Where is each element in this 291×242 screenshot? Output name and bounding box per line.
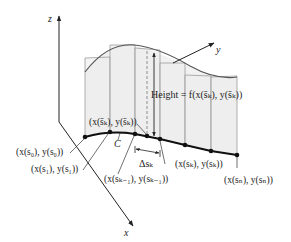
label-s-n: (x(sₙ), y(sₙ)) bbox=[224, 175, 273, 186]
label-sbar-k: (x(s̄ₖ), y(s̄ₖ)) bbox=[89, 117, 137, 128]
y-axis-label: y bbox=[215, 44, 221, 55]
point-s-n bbox=[235, 153, 240, 158]
panel-4 bbox=[160, 63, 185, 145]
point-sbar-k bbox=[145, 134, 150, 139]
point-s5 bbox=[183, 143, 188, 148]
point-s1 bbox=[108, 130, 113, 135]
panel-5 bbox=[185, 75, 211, 151]
label-s1: (x(s₁), y(s₁)) bbox=[31, 164, 78, 175]
label-s-k: (x(sₖ), y(sₖ)) bbox=[175, 159, 223, 170]
z-axis: z bbox=[47, 13, 59, 122]
label-s-k-minus-1: (x(sₖ₋₁), y(sₖ₋₁)) bbox=[104, 174, 168, 185]
y-axis: y bbox=[173, 43, 221, 63]
label-s0: (x(s₀), y(s₀)) bbox=[16, 147, 63, 158]
delta-s-label: Δsₖ bbox=[139, 158, 153, 169]
point-s0 bbox=[83, 135, 88, 140]
delta-s-indicator: Δsₖ bbox=[135, 146, 160, 169]
panel-6 bbox=[211, 76, 237, 155]
x-axis-label: x bbox=[123, 227, 129, 238]
point-s6 bbox=[209, 149, 214, 154]
point-s-k-minus-1 bbox=[133, 132, 138, 137]
point-s-k bbox=[158, 137, 163, 142]
curve-label: C bbox=[114, 138, 121, 149]
z-axis-label: z bbox=[47, 13, 52, 24]
line-integral-figure: z y x bbox=[0, 0, 291, 242]
height-label: Height = f(x(s̄ₖ), y(s̄ₖ)) bbox=[151, 89, 242, 101]
